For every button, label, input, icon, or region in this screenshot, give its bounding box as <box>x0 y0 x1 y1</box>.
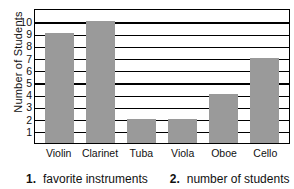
caption-number-1: 1. <box>26 172 36 186</box>
y-tick-label: 9 <box>12 29 32 39</box>
x-tick-label: Oboe <box>203 147 244 159</box>
y-tick-label: 3 <box>12 102 32 112</box>
y-tick-label: 8 <box>12 41 32 51</box>
caption: 1. favorite instruments 2. number of stu… <box>0 168 294 189</box>
caption-text-1: favorite instruments <box>43 172 148 186</box>
y-tick-label: 1 <box>12 127 32 137</box>
x-tick-label: Clarinet <box>79 147 120 159</box>
caption-text-2: number of students <box>187 172 290 186</box>
caption-item-2: 2. number of students <box>170 172 290 186</box>
bar <box>168 119 198 143</box>
y-tick-label: 5 <box>12 78 32 88</box>
bar-slot <box>121 10 162 143</box>
bar-slot <box>39 10 80 143</box>
x-tick-label: Cello <box>245 147 286 159</box>
y-axis-tick-labels: 10987654321 <box>12 9 32 144</box>
y-tick-label: 7 <box>12 54 32 64</box>
y-tick-label: 2 <box>12 115 32 125</box>
bar-chart-figure: Number of Students 10987654321 ViolinCla… <box>0 0 294 189</box>
bar-series <box>35 10 289 143</box>
x-tick-label: Viola <box>162 147 203 159</box>
bar <box>209 94 239 143</box>
x-tick-label: Violin <box>38 147 79 159</box>
y-tick-label: 4 <box>12 90 32 100</box>
bar-slot <box>244 10 285 143</box>
caption-item-1: 1. favorite instruments <box>26 172 148 186</box>
bar <box>86 21 116 143</box>
bar-slot <box>80 10 121 143</box>
bar-slot <box>162 10 203 143</box>
bar <box>127 119 157 143</box>
x-tick-label: Tuba <box>121 147 162 159</box>
bar <box>45 33 75 143</box>
x-axis-tick-labels: ViolinClarinetTubaViolaOboeCello <box>34 147 290 159</box>
y-tick-label: 6 <box>12 66 32 76</box>
caption-number-2: 2. <box>170 172 180 186</box>
plot-area <box>34 9 290 144</box>
y-tick-label: 10 <box>12 17 32 27</box>
bar-slot <box>203 10 244 143</box>
bar <box>250 58 280 143</box>
